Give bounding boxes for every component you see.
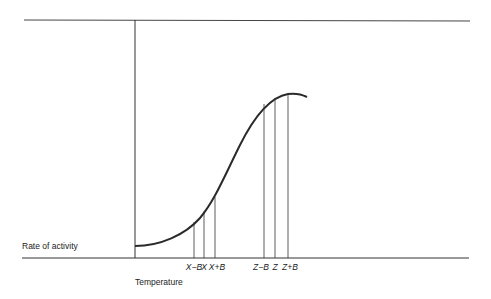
y-axis-label: Rate of activity xyxy=(22,241,78,251)
x-axis-label: Temperature xyxy=(135,277,183,287)
activity-curve xyxy=(135,94,307,246)
top-border-line xyxy=(24,20,470,21)
tick-label-z-minus-b: Z−B xyxy=(253,262,269,272)
tick-label-z: Z xyxy=(272,262,277,272)
rate-vs-temperature-diagram xyxy=(0,0,491,299)
tick-label-x-plus-b: X+B xyxy=(209,262,225,272)
tick-label-x: X xyxy=(201,262,207,272)
tick-label-z-plus-b: Z+B xyxy=(282,262,298,272)
tick-label-x-minus-b: X−B xyxy=(186,262,202,272)
